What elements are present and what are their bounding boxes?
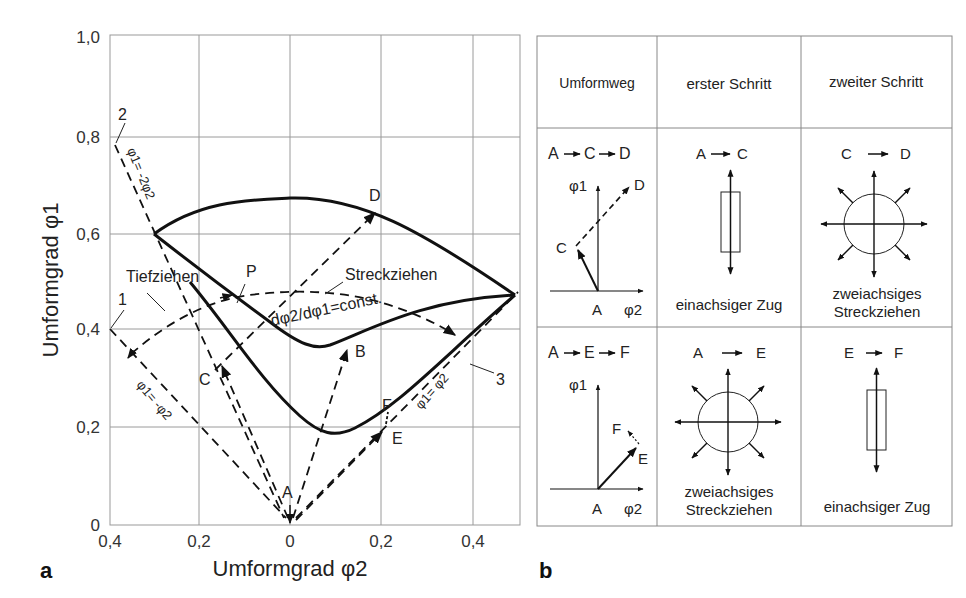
panel-b-table: Umformweg erster Schritt zweiter Schritt…: [537, 36, 952, 583]
label-D: D: [369, 187, 381, 204]
label-A: A: [282, 484, 293, 501]
step-caption: einachsiger Zug: [824, 498, 931, 515]
path-a-e: [296, 432, 382, 520]
path-node: E: [584, 344, 595, 361]
path-node: D: [619, 145, 631, 162]
label-line2-eq: φ1= -2φ2: [124, 146, 158, 202]
mini-phi2-label: φ2: [624, 301, 642, 318]
reference-lines: [110, 145, 518, 520]
row2-step1: A E zweiachsiges Streckziehen: [675, 344, 781, 518]
panel-a-chart: 0 0,2 0,4 0,6 0,8 1,0 0,4 0,2 0 0,2 0,4 …: [38, 28, 520, 583]
vector-a-e: [598, 448, 636, 489]
mini-point-E: E: [638, 450, 648, 467]
step-to: D: [900, 145, 911, 162]
label-tiefziehen: Tiefziehen: [126, 268, 199, 285]
x-tick: 0,4: [98, 532, 122, 551]
path-node: A: [548, 145, 559, 162]
label-P: P: [246, 263, 257, 280]
table-row-1: A C D φ1 φ2 A C D A C: [548, 145, 927, 320]
step-caption: Streckziehen: [834, 303, 921, 320]
path-a-c: [222, 366, 288, 518]
vector-a-c: [578, 250, 598, 291]
vector-e-f: [628, 431, 639, 444]
path-c-d: [215, 213, 375, 370]
limit-curve-upper: [154, 198, 515, 295]
y-tick: 0,6: [76, 225, 100, 244]
x-tick: 0,4: [461, 532, 485, 551]
table-header: Umformweg erster Schritt zweiter Schritt: [559, 73, 924, 92]
table-grid: [537, 36, 952, 526]
y-tick: 0,2: [76, 418, 100, 437]
y-tick: 0,4: [76, 320, 100, 339]
mini-phi1-label: φ1: [569, 177, 587, 194]
step-to: F: [894, 344, 903, 361]
tiefziehen-arrow-up: [220, 295, 232, 298]
leader-lines: [111, 123, 494, 373]
row1-mini-diagram: φ1 φ2 A C D: [550, 176, 645, 318]
x-axis-ticks: 0,4 0,2 0 0,2 0,4: [98, 532, 485, 551]
label-F: F: [382, 397, 392, 414]
table-row-2: A E F φ1 φ2 A E F A E: [548, 344, 930, 518]
label-B: B: [355, 343, 366, 360]
biaxial-specimen-icon: [821, 171, 927, 277]
mini-point-D: D: [634, 176, 645, 193]
label-C: C: [199, 371, 211, 388]
path-node: F: [620, 344, 630, 361]
y-axis-ticks: 0 0,2 0,4 0,6 0,8 1,0: [76, 28, 100, 535]
header-umformweg: Umformweg: [559, 75, 634, 91]
line-1: [110, 329, 286, 518]
row1-path: A C D: [548, 145, 631, 162]
y-tick: 1,0: [76, 28, 100, 47]
y-axis-label: Umformgrad φ1: [38, 203, 63, 358]
mini-point-C: C: [556, 239, 567, 256]
label-line1-eq: φ1= -φ2: [134, 377, 176, 423]
tiefziehen-arrow: [128, 354, 131, 358]
row1-step1: A C einachsiger Zug: [676, 145, 783, 313]
mini-point-A: A: [592, 500, 602, 517]
label-streckziehen: Streckziehen: [345, 266, 438, 283]
label-3: 3: [496, 371, 505, 388]
x-tick: 0: [285, 532, 294, 551]
row2-step2: E F einachsiger Zug: [824, 344, 931, 515]
row1-step2: C D zweiachsiges Streckziehen: [821, 145, 927, 320]
header-erster-schritt: erster Schritt: [686, 75, 772, 92]
step-to: C: [737, 145, 748, 162]
step-to: E: [756, 344, 766, 361]
label-2: 2: [118, 106, 127, 123]
mini-point-F: F: [612, 420, 621, 437]
mini-point-A: A: [592, 301, 602, 318]
biaxial-specimen-icon: [675, 369, 781, 475]
x-tick: 0,2: [369, 532, 393, 551]
step-caption: Streckziehen: [686, 501, 773, 518]
step-caption: zweiachsiges: [684, 483, 773, 500]
x-axis-label: Umformgrad φ2: [213, 556, 368, 581]
limit-curve-middle: [154, 234, 515, 347]
path-node: A: [548, 344, 559, 361]
panel-label-b: b: [539, 558, 552, 583]
panel-label-a: a: [40, 558, 53, 583]
table-frame: [537, 36, 952, 526]
y-tick: 0,8: [76, 128, 100, 147]
step-caption: einachsiger Zug: [676, 296, 783, 313]
row2-path: A E F: [548, 344, 630, 361]
step-from: A: [693, 344, 703, 361]
label-1: 1: [118, 291, 127, 308]
mini-phi1-label: φ1: [569, 376, 587, 393]
row2-mini-diagram: φ1 φ2 A E F: [550, 376, 648, 517]
line-3: [296, 292, 518, 518]
figure: 0 0,2 0,4 0,6 0,8 1,0 0,4 0,2 0 0,2 0,4 …: [0, 0, 966, 598]
header-zweiter-schritt: zweiter Schritt: [829, 73, 924, 90]
step-from: A: [696, 145, 706, 162]
label-const-ratio: dφ2/dφ1=const.: [269, 289, 383, 329]
step-caption: zweiachsiges: [832, 285, 921, 302]
mini-phi2-label: φ2: [624, 500, 642, 517]
label-line3-eq: φ1= φ2: [412, 370, 452, 412]
vector-c-d: [576, 187, 629, 246]
label-E: E: [392, 430, 403, 447]
path-node: C: [584, 145, 596, 162]
step-from: C: [841, 145, 852, 162]
x-tick: 0,2: [187, 532, 211, 551]
step-from: E: [844, 344, 854, 361]
